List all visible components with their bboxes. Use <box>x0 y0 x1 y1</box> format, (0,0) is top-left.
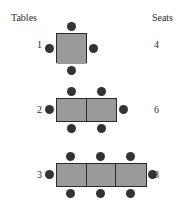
table-unit <box>57 99 87 121</box>
seat-dot <box>119 105 128 114</box>
seat-dot <box>97 87 106 96</box>
seat-dot <box>67 66 76 75</box>
table-group <box>56 163 147 187</box>
row-seat-count: 6 <box>154 105 168 115</box>
seat-dot <box>45 44 54 53</box>
seat-dot <box>96 189 105 198</box>
diagram-row: 3 8 <box>0 152 181 204</box>
seat-dot <box>66 152 75 161</box>
table-unit <box>116 164 146 186</box>
seat-dot <box>97 124 106 133</box>
seat-dot <box>66 189 75 198</box>
seat-dot <box>148 170 157 179</box>
row-seat-count: 4 <box>154 40 168 50</box>
seat-dot <box>126 189 135 198</box>
table-group <box>56 33 87 63</box>
seat-dot <box>67 87 76 96</box>
seat-dot <box>45 105 54 114</box>
row-table-count: 3 <box>30 170 42 180</box>
table-group <box>56 98 117 122</box>
seat-dot <box>89 44 98 53</box>
row-table-count: 2 <box>30 105 42 115</box>
row-table-count: 1 <box>30 40 42 50</box>
seat-dot <box>45 170 54 179</box>
table-unit <box>87 164 117 186</box>
table-unit <box>87 99 116 121</box>
seat-dot <box>126 152 135 161</box>
table-unit <box>57 34 86 64</box>
seat-dot <box>67 124 76 133</box>
diagram-row: 1 4 <box>0 22 181 72</box>
seat-dot <box>96 152 105 161</box>
table-unit <box>57 164 87 186</box>
diagram-row: 2 6 <box>0 88 181 136</box>
seat-dot <box>67 22 76 31</box>
tables-seats-diagram: Tables Seats 1 4 2 6 3 8 <box>0 0 181 210</box>
